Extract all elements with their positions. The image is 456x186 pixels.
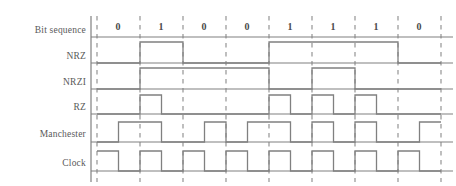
waveform-rz xyxy=(97,95,441,114)
waveform-clock xyxy=(97,151,441,171)
waveform-nrz xyxy=(97,42,441,63)
waveform-nrzi xyxy=(97,68,441,89)
encoding-waveform-diagram: Bit sequence NRZ NRZI RZ Manchester Cloc… xyxy=(0,0,456,186)
waveform-canvas xyxy=(0,0,456,186)
waveform-layer xyxy=(97,42,441,171)
